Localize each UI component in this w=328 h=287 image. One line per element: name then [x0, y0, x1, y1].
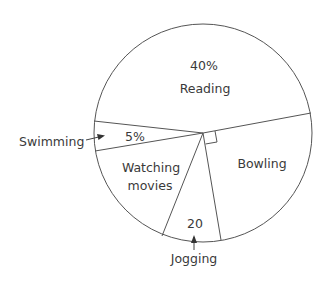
- boundary-reading-bowling: [203, 113, 311, 133]
- boundary-swimming-watching: [95, 133, 203, 151]
- boundary-reading-swimming: [94, 121, 203, 133]
- watching-label-1: Watching: [122, 160, 180, 175]
- right-angle-marker: [206, 131, 218, 144]
- reading-percent: 40%: [190, 58, 218, 73]
- watching-label-2: movies: [128, 178, 173, 193]
- pie-chart: 40% Reading 5% Swimming Watching movies …: [0, 0, 328, 287]
- reading-label: Reading: [180, 81, 231, 96]
- jogging-label: Jogging: [170, 251, 218, 266]
- swimming-label: Swimming: [19, 134, 84, 149]
- boundary-jogging-bowling: [203, 133, 221, 240]
- bowling-label: Bowling: [237, 156, 286, 171]
- jogging-value: 20: [187, 216, 203, 231]
- arrow-icon: [191, 235, 197, 243]
- swimming-percent: 5%: [125, 129, 145, 144]
- arrow-icon: [97, 134, 105, 140]
